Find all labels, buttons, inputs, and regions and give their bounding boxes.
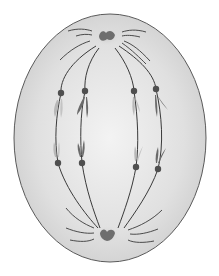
cell-membrane [14,14,206,262]
centrosome-top [95,28,119,46]
diagram-canvas [0,0,219,276]
anaphase-cell-diagram [0,0,219,276]
centrosome-bottom [95,226,119,244]
